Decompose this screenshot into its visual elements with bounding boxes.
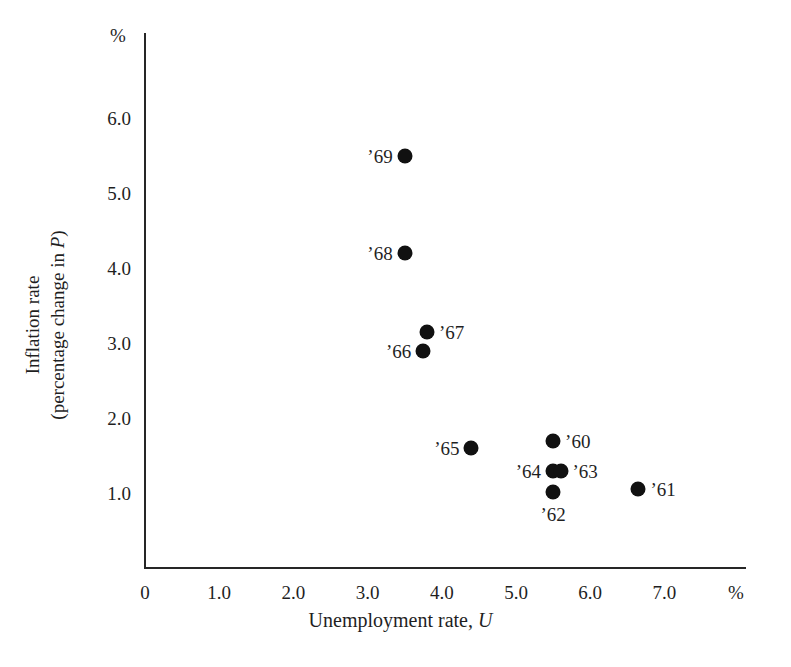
y-tick-label: 6.0	[107, 109, 131, 128]
x-axis-unit-percent: %	[728, 583, 744, 602]
data-point-marker	[416, 343, 431, 358]
y-axis-title-line1: Inflation rate	[20, 175, 45, 475]
data-point-marker	[553, 463, 568, 478]
y-tick-label: 5.0	[107, 184, 131, 203]
y-axis-title-line2-pre: (percentage change in	[47, 248, 68, 419]
data-point-label: ’60	[565, 431, 590, 450]
x-axis-title-variable-u: U	[478, 609, 492, 631]
x-tick-label: 6.0	[578, 583, 602, 602]
data-point-label: ’65	[434, 439, 459, 458]
x-tick-label: 2.0	[282, 583, 306, 602]
x-tick-label: 3.0	[356, 583, 380, 602]
data-point-marker	[419, 324, 434, 339]
x-tick-label: 4.0	[430, 583, 454, 602]
x-tick-label: 0	[140, 583, 150, 602]
y-axis-unit-percent: %	[110, 26, 126, 45]
y-tick-label: 4.0	[107, 259, 131, 278]
data-point-label: ’64	[516, 461, 541, 480]
y-axis-title-line2: (percentage change in P)	[45, 175, 70, 475]
data-point-marker	[546, 484, 561, 499]
y-axis-line	[144, 33, 146, 569]
x-tick-label: 1.0	[207, 583, 231, 602]
data-point-marker	[397, 148, 412, 163]
x-tick-label: 5.0	[504, 583, 528, 602]
y-axis-title-line2-post: )	[47, 230, 68, 236]
data-point-marker	[631, 482, 646, 497]
x-tick-label: 7.0	[653, 583, 677, 602]
x-axis-title: Unemployment rate, U	[0, 609, 791, 632]
data-point-label: ’62	[540, 505, 565, 524]
y-axis-title-variable-p: P	[47, 237, 68, 249]
data-point-label: ’61	[650, 480, 675, 499]
y-tick-label: 2.0	[107, 409, 131, 428]
data-point-marker	[397, 246, 412, 261]
data-point-label: ’69	[367, 146, 392, 165]
data-point-label: ’68	[367, 244, 392, 263]
data-point-label: ’67	[439, 322, 464, 341]
data-point-marker	[546, 433, 561, 448]
y-tick-label: 1.0	[107, 484, 131, 503]
x-axis-title-pre: Unemployment rate,	[309, 609, 478, 631]
data-point-marker	[464, 441, 479, 456]
x-axis-line	[144, 567, 746, 569]
y-axis-title: Inflation rate (percentage change in P)	[20, 175, 70, 475]
data-point-label: ’66	[386, 341, 411, 360]
y-tick-label: 3.0	[107, 334, 131, 353]
phillips-curve-scatter-chart: % % Inflation rate (percentage change in…	[0, 0, 791, 667]
data-point-label: ’63	[573, 461, 598, 480]
